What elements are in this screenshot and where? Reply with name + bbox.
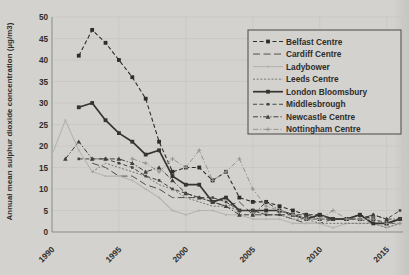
legend-item-label: Middlesbrough (286, 99, 345, 109)
data-point-marker (158, 197, 160, 199)
y-tick-label: 25 (39, 121, 49, 130)
data-point-marker (371, 222, 375, 226)
data-point-marker (143, 170, 148, 174)
data-point-marker (90, 28, 94, 32)
y-tick-label: 35 (39, 78, 49, 87)
data-point-marker (117, 131, 121, 135)
data-point-marker (371, 213, 376, 217)
x-tick-label: 2000 (171, 245, 191, 265)
so2-line-chart: 0510152025303540455019901995200020052010… (0, 0, 409, 275)
data-point-marker (278, 214, 281, 217)
data-point-marker (130, 75, 134, 79)
y-tick-label: 30 (39, 99, 49, 108)
legend-item-label: Newcastle Centre (286, 112, 356, 122)
data-point-marker (76, 139, 81, 143)
data-point-marker (118, 175, 120, 177)
series-line-ladybower (52, 120, 400, 228)
y-tick-label: 0 (43, 228, 48, 237)
data-point-marker (157, 148, 161, 152)
data-point-marker (264, 209, 268, 213)
legend-item-label: Belfast Centre (286, 37, 343, 47)
data-point-marker (225, 201, 228, 204)
data-point-marker (131, 166, 134, 169)
data-point-marker (251, 209, 254, 212)
data-point-marker (77, 158, 80, 161)
series-line-leeds-centre (92, 163, 400, 228)
y-tick-label: 45 (39, 35, 49, 44)
data-point-marker (117, 58, 121, 62)
data-point-marker (198, 210, 200, 212)
legend-item-label: Nottingham Centre (286, 124, 361, 134)
x-tick-label: 2005 (238, 245, 258, 265)
data-point-marker (144, 97, 148, 101)
data-point-marker (266, 90, 270, 94)
data-point-marker (77, 54, 81, 58)
y-axis-title: Annual mean sulphur dioxide concentratio… (5, 7, 14, 237)
data-point-marker (144, 175, 147, 178)
y-tick-label: 40 (39, 56, 49, 65)
chart-page: Annual mean sulphur dioxide concentratio… (0, 0, 409, 275)
legend-item-label: Cardiff Centre (286, 49, 342, 59)
data-point-marker (267, 103, 270, 106)
data-point-marker (279, 218, 281, 220)
data-point-marker (332, 227, 334, 229)
y-tick-label: 10 (39, 185, 49, 194)
y-tick-label: 20 (39, 142, 49, 151)
data-point-marker (212, 210, 214, 212)
data-point-marker (64, 119, 66, 121)
data-point-marker (211, 196, 214, 199)
data-point-marker (224, 196, 228, 200)
data-point-marker (51, 154, 53, 156)
data-point-marker (305, 222, 307, 224)
data-point-marker (171, 174, 175, 178)
data-point-marker (170, 178, 175, 182)
x-tick-label: 2010 (305, 245, 325, 265)
data-point-marker (144, 153, 148, 157)
data-point-marker (131, 179, 133, 181)
data-point-marker (225, 214, 227, 216)
data-point-marker (104, 118, 108, 122)
data-point-marker (171, 188, 174, 191)
x-tick-label: 2015 (372, 245, 392, 265)
data-point-marker (278, 204, 282, 208)
data-point-marker (158, 179, 161, 182)
data-point-marker (130, 140, 134, 144)
data-point-marker (185, 214, 187, 216)
data-point-marker (145, 188, 147, 190)
data-point-marker (292, 222, 294, 224)
data-point-marker (171, 210, 173, 212)
x-tick-label: 1990 (37, 245, 57, 265)
data-point-marker (251, 200, 255, 204)
data-point-marker (78, 149, 80, 151)
data-point-marker (267, 66, 269, 68)
data-point-marker (265, 214, 268, 217)
data-point-marker (291, 209, 295, 213)
data-point-marker (90, 101, 94, 105)
legend-item-label: London Bloomsbury (286, 87, 368, 97)
data-point-marker (237, 196, 241, 200)
data-point-marker (318, 213, 322, 217)
data-point-marker (157, 140, 161, 144)
data-point-marker (118, 162, 121, 165)
series-line-newcastle-centre (65, 142, 400, 219)
data-point-marker (184, 183, 188, 187)
data-point-marker (399, 209, 402, 212)
data-point-marker (77, 105, 81, 109)
data-point-marker (252, 218, 254, 220)
data-point-marker (265, 218, 267, 220)
series-line-nottingham-centre (132, 150, 400, 223)
data-point-marker (266, 40, 270, 44)
legend-item-label: Ladybower (286, 62, 331, 72)
y-tick-label: 50 (39, 13, 49, 22)
data-point-marker (104, 41, 108, 45)
data-point-marker (197, 166, 201, 170)
data-point-marker (358, 213, 362, 217)
x-tick-label: 1995 (104, 245, 124, 265)
y-tick-label: 15 (39, 164, 49, 173)
data-point-marker (197, 183, 201, 187)
data-point-marker (105, 175, 107, 177)
y-tick-label: 5 (43, 207, 48, 216)
legend-item-label: Leeds Centre (286, 74, 339, 84)
data-point-marker (238, 209, 241, 212)
